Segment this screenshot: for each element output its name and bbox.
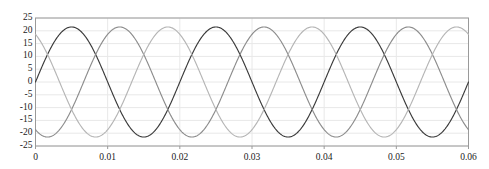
y-tick-label: 20: [23, 26, 33, 36]
y-tick-label: -15: [20, 115, 33, 125]
y-tick-label: 15: [23, 39, 33, 49]
x-tick-label: 0.01: [78, 153, 138, 163]
y-tick-label: -25: [20, 141, 33, 151]
x-tick-label: 0.06: [439, 153, 489, 163]
y-tick-label: 10: [23, 51, 33, 61]
x-tick-label: 0: [6, 153, 66, 163]
chart-figure: 2520151050-5-10-15-20-25 00.010.020.030.…: [0, 0, 489, 169]
y-tick-label: -10: [20, 103, 33, 113]
x-tick-label: 0.05: [366, 153, 426, 163]
x-tick-label: 0.02: [150, 153, 210, 163]
x-tick-label: 0.03: [222, 153, 282, 163]
x-tick-label: 0.04: [294, 153, 354, 163]
y-tick-label: 5: [28, 64, 33, 74]
y-tick-label: 0: [28, 77, 33, 87]
y-tick-label: 25: [23, 13, 33, 23]
y-tick-label: -5: [25, 90, 33, 100]
plot-canvas: [0, 0, 489, 169]
y-tick-label: -20: [20, 128, 33, 138]
